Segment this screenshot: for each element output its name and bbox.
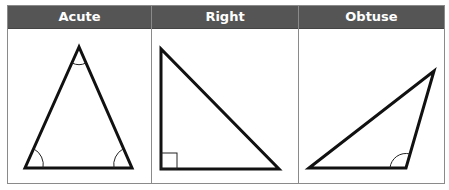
right-triangle-figure — [152, 29, 299, 185]
header-acute: Acute — [8, 6, 151, 29]
column-acute: Acute — [8, 6, 151, 183]
column-obtuse: Obtuse — [298, 6, 444, 183]
column-right: Right — [151, 6, 298, 183]
triangle-types-table: Acute Right Obtuse — [7, 5, 445, 184]
header-right: Right — [152, 6, 298, 29]
obtuse-triangle-figure — [299, 29, 445, 185]
acute-triangle-figure — [8, 29, 151, 185]
header-obtuse: Obtuse — [299, 6, 444, 29]
